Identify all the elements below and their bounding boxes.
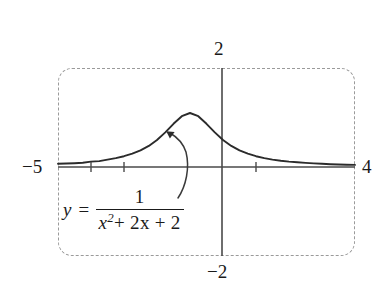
equation-fraction: 1 x2+ 2x + 2 [96,186,184,234]
plot-canvas [0,0,387,295]
y-axis-max-label: 2 [214,39,224,58]
function-graph-figure: −5 4 2 −2 y = 1 x2+ 2x + 2 [0,0,387,295]
fraction-denominator: x2+ 2x + 2 [96,210,184,234]
x-axis-max-label: 4 [362,157,372,176]
denominator-variable: x [99,212,108,233]
equation-lhs: y = [63,199,91,221]
denominator-rest: + 2x + 2 [114,212,181,233]
function-curve [58,113,355,165]
fraction-numerator: 1 [125,186,155,209]
y-axis-min-label: −2 [207,262,227,281]
equation-label: y = 1 x2+ 2x + 2 [63,186,184,234]
x-axis-min-label: −5 [22,157,42,176]
denominator-exponent: 2 [107,210,114,225]
